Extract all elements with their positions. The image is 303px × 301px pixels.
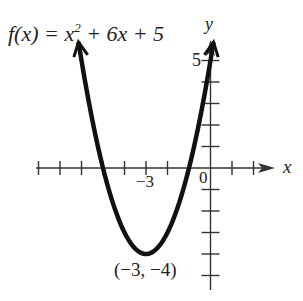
y-axis-label: y [205, 14, 213, 35]
x-axis-label: x [283, 156, 291, 178]
x-tick-label-neg3: −3 [136, 172, 154, 192]
parabola-curve [80, 54, 211, 254]
vertex-label: (−3, −4) [114, 259, 177, 281]
origin-label: 0 [199, 168, 208, 188]
y-tick-label-5: 5 [192, 50, 201, 71]
function-equation: f(x) = x2 + 6x + 5 [8, 20, 164, 47]
